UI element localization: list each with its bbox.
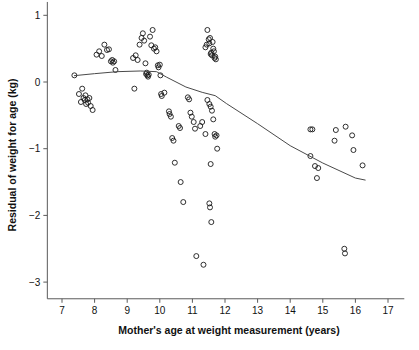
- y-tick-label: −1: [29, 143, 41, 154]
- data-point: [208, 162, 213, 167]
- data-point: [194, 254, 199, 259]
- x-tick-label: 12: [219, 305, 231, 316]
- y-tick-label: 1: [35, 10, 41, 21]
- x-tick-label: 15: [317, 305, 329, 316]
- data-point: [150, 27, 155, 32]
- y-tick-label: 0: [35, 77, 41, 88]
- data-point: [215, 146, 220, 151]
- data-point: [209, 220, 214, 225]
- x-axis-ticks: 7891011121314151617: [59, 299, 394, 316]
- data-point: [342, 251, 347, 256]
- y-axis-ticks: 10−1−2−3: [29, 10, 47, 288]
- data-point: [200, 120, 205, 125]
- data-point: [314, 176, 319, 181]
- data-point: [90, 108, 95, 113]
- x-tick-label: 8: [92, 305, 98, 316]
- x-tick-label: 16: [350, 305, 362, 316]
- data-point: [148, 34, 153, 39]
- x-tick-label: 17: [382, 305, 394, 316]
- x-axis-title: Mother's age at weight measurement (year…: [118, 324, 339, 336]
- data-points-layer: [72, 27, 365, 267]
- y-tick-label: −3: [29, 277, 41, 288]
- plot-canvas: 10−1−2−3 7891011121314151617 Mother's ag…: [0, 0, 419, 350]
- data-point: [99, 53, 104, 58]
- data-point: [102, 42, 107, 47]
- data-point: [342, 246, 347, 251]
- data-point: [178, 180, 183, 185]
- data-point: [193, 126, 198, 131]
- x-tick-label: 7: [59, 305, 65, 316]
- data-point: [201, 262, 206, 267]
- data-point: [143, 61, 148, 66]
- data-point: [80, 86, 85, 91]
- data-point: [332, 138, 337, 143]
- data-point: [132, 86, 137, 91]
- data-point: [97, 49, 102, 54]
- data-point: [211, 117, 216, 122]
- data-point: [162, 90, 167, 95]
- data-point: [333, 128, 338, 133]
- data-point: [343, 124, 348, 129]
- x-tick-label: 11: [187, 305, 198, 316]
- x-tick-label: 13: [252, 305, 264, 316]
- data-point: [137, 42, 142, 47]
- y-axis-title: Residual of weight for age (kg): [6, 79, 18, 232]
- scatter-plot-figure: 10−1−2−3 7891011121314151617 Mother's ag…: [0, 0, 419, 350]
- y-tick-label: −2: [29, 210, 41, 221]
- data-point: [135, 57, 140, 62]
- data-point: [205, 27, 210, 32]
- data-point: [94, 52, 99, 57]
- data-point: [351, 148, 356, 153]
- x-tick-label: 10: [154, 305, 166, 316]
- data-point: [191, 120, 196, 125]
- data-point: [350, 133, 355, 138]
- data-point: [140, 31, 145, 36]
- data-point: [172, 160, 177, 165]
- data-point: [360, 163, 365, 168]
- regression-fit-line: [74, 71, 365, 180]
- data-point: [203, 132, 208, 137]
- data-point: [210, 39, 215, 44]
- data-point: [76, 92, 81, 97]
- x-tick-label: 9: [124, 305, 130, 316]
- data-point: [181, 200, 186, 205]
- x-tick-label: 14: [285, 305, 297, 316]
